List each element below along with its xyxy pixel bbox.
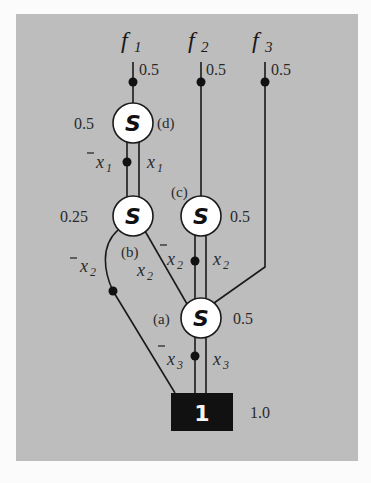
node-d: S (d) 0.5	[74, 103, 175, 143]
node-a-tag: (a)	[153, 311, 170, 328]
node-d-symbol: S	[125, 111, 141, 136]
label-b-terminal-neg: x 2	[70, 256, 96, 279]
dot-f3	[261, 78, 270, 87]
node-a-prob: 0.5	[233, 310, 253, 327]
svg-text:x: x	[166, 349, 175, 369]
label-c-a-neg: x 2	[160, 245, 183, 272]
wire-f3	[214, 62, 265, 303]
dot-x3	[191, 352, 200, 361]
svg-text:2: 2	[223, 258, 229, 272]
node-b-symbol: S	[125, 204, 141, 229]
svg-text:2: 2	[147, 269, 153, 283]
node-d-tag: (d)	[157, 115, 175, 132]
label-b-a-pos: x 2	[136, 260, 153, 283]
node-b-tag: (b)	[121, 244, 139, 261]
svg-text:x: x	[95, 152, 104, 172]
bdd-diagram: f 1 0.5 f 2 0.5 f 3 0.5 S (d) 0.5 S (b) …	[0, 0, 371, 483]
output-f3-value: 0.5	[271, 61, 291, 78]
svg-text:x: x	[79, 256, 88, 276]
dot-x1	[123, 158, 132, 167]
node-c-symbol: S	[193, 204, 209, 229]
output-f1-value: 0.5	[139, 61, 159, 78]
terminal-symbol: 1	[194, 401, 209, 426]
node-c-prob: 0.5	[230, 208, 250, 225]
svg-text:2: 2	[90, 265, 96, 279]
node-c: S (c) 0.5	[171, 184, 250, 236]
output-f2-label: f	[188, 27, 198, 53]
node-a: S (a) 0.5	[153, 298, 253, 338]
svg-text:x: x	[166, 249, 175, 269]
output-f3-sub: 3	[264, 39, 273, 55]
svg-text:1: 1	[106, 161, 112, 175]
output-f1-sub: 1	[134, 39, 142, 55]
node-c-tag: (c)	[171, 184, 188, 201]
dot-b-x2	[109, 287, 118, 296]
svg-text:3: 3	[222, 358, 229, 372]
label-d-b-pos: x 1	[146, 152, 163, 175]
svg-text:3: 3	[176, 358, 183, 372]
terminal-node: 1 1.0	[171, 393, 270, 431]
dot-f1	[129, 78, 138, 87]
label-d-b-neg: x 1	[87, 152, 112, 175]
terminal-prob: 1.0	[250, 404, 270, 421]
label-a-terminal-pos: x 3	[212, 349, 229, 372]
node-b-prob: 0.25	[60, 208, 88, 225]
node-a-symbol: S	[193, 306, 209, 331]
dot-f2	[197, 78, 206, 87]
svg-text:x: x	[136, 260, 145, 280]
output-f1-label: f	[121, 27, 131, 53]
output-f3-label: f	[252, 27, 262, 53]
output-f2-sub: 2	[201, 39, 209, 55]
label-c-a-pos: x 2	[212, 249, 229, 272]
dot-c-x2	[191, 257, 200, 266]
svg-text:1: 1	[157, 161, 163, 175]
label-a-terminal-neg: x 3	[158, 346, 183, 372]
svg-text:x: x	[146, 152, 155, 172]
svg-text:2: 2	[177, 258, 183, 272]
svg-text:x: x	[212, 349, 221, 369]
svg-text:x: x	[212, 249, 221, 269]
output-f2-value: 0.5	[206, 61, 226, 78]
node-d-prob: 0.5	[74, 115, 94, 132]
